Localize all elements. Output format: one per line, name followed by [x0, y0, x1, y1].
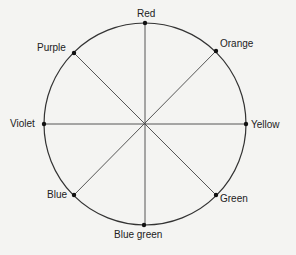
label-blue-green: Blue green	[114, 229, 162, 241]
label-green: Green	[220, 193, 248, 205]
dot-blue-green	[142, 223, 146, 227]
dot-orange	[214, 49, 218, 53]
label-orange: Orange	[220, 38, 253, 50]
label-purple: Purple	[37, 42, 66, 54]
dot-blue	[72, 193, 76, 197]
dot-violet	[42, 122, 46, 126]
dot-red	[143, 21, 147, 25]
label-yellow: Yellow	[251, 119, 280, 131]
dot-yellow	[244, 122, 248, 126]
label-violet: Violet	[10, 118, 35, 130]
label-blue: Blue	[47, 189, 67, 201]
dot-green	[214, 193, 218, 197]
label-red: Red	[137, 8, 155, 20]
dot-purple	[72, 51, 76, 55]
